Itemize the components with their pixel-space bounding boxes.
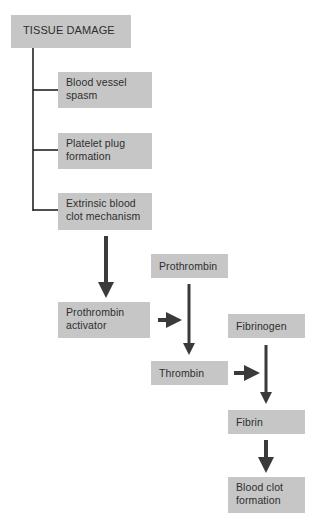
- node-label-line-1: Prothrombin: [66, 306, 150, 319]
- node-label: Thrombin: [159, 367, 228, 380]
- node-label-line-2: activator: [66, 319, 150, 332]
- node-fibrinogen: Fibrinogen: [228, 314, 305, 338]
- node-label: Prothrombin: [159, 260, 228, 273]
- node-label-line-1: Platelet plug: [66, 137, 152, 150]
- node-label-line-1: Extrinsic blood: [66, 197, 152, 210]
- node-label-line-2: clot mechanism: [66, 210, 152, 223]
- branch-tree-lines: [33, 48, 58, 211]
- node-fibrin: Fibrin: [228, 410, 305, 434]
- node-tissue-damage: TISSUE DAMAGE: [11, 15, 131, 48]
- node-label-line-2: formation: [66, 150, 152, 163]
- node-prothrombin: Prothrombin: [151, 254, 228, 278]
- node-label-line-1: Blood vessel: [66, 76, 152, 89]
- node-extrinsic-mechanism: Extrinsic blood clot mechanism: [58, 193, 152, 230]
- node-thrombin: Thrombin: [151, 361, 228, 385]
- node-label: Fibrinogen: [236, 320, 305, 333]
- node-vessel-spasm: Blood vessel spasm: [58, 72, 152, 108]
- node-label-line-1: Blood clot: [236, 481, 305, 494]
- node-label-line-2: formation: [236, 494, 305, 507]
- node-label: Fibrin: [236, 416, 305, 429]
- node-platelet-plug: Platelet plug formation: [58, 133, 152, 169]
- node-label: TISSUE DAMAGE: [23, 24, 131, 37]
- node-label-line-2: spasm: [66, 89, 152, 102]
- node-prothrombin-activator: Prothrombin activator: [58, 302, 150, 338]
- node-blood-clot-formation: Blood clot formation: [228, 477, 305, 513]
